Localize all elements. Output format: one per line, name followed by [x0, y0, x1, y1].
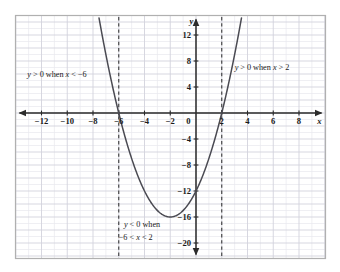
x-tick-label: −6 [114, 116, 124, 126]
coordinate-plane-svg: −12−10−8−6−4−202468 1284−4−8−12−16−20 xy… [0, 0, 340, 272]
y-tick-label: −20 [178, 238, 192, 248]
annotation-bottom-line2: −6 < x < 2 [119, 233, 153, 242]
annotation-bottom-line1: y < 0 when [123, 220, 160, 229]
x-tick-label: 0 [186, 116, 190, 126]
x-tick-label: 4 [245, 116, 250, 126]
x-tick-label: 2 [220, 116, 224, 126]
y-tick-label: 4 [187, 82, 192, 92]
y-tick-label: −12 [178, 186, 192, 196]
x-tick-label: −10 [61, 116, 75, 126]
x-axis-label: x [316, 116, 322, 126]
x-tick-label: −2 [166, 116, 175, 126]
y-tick-label: 12 [182, 30, 191, 40]
x-tick-label: −4 [140, 116, 150, 126]
y-tick-label: 8 [187, 56, 192, 66]
x-tick-label: 8 [297, 116, 302, 126]
annotation-left: y > 0 when x < −6 [26, 70, 86, 79]
annotation-right: y > 0 when x > 2 [234, 63, 290, 72]
graph-figure: −12−10−8−6−4−202468 1284−4−8−12−16−20 xy… [0, 0, 340, 272]
x-tick-label: −12 [35, 116, 49, 126]
x-tick-label: 6 [271, 116, 276, 126]
y-tick-label: −4 [182, 134, 192, 144]
y-tick-label: −16 [178, 212, 192, 222]
x-tick-label: −8 [88, 116, 98, 126]
y-tick-label: −8 [182, 160, 192, 170]
y-axis-label: y [189, 16, 194, 26]
